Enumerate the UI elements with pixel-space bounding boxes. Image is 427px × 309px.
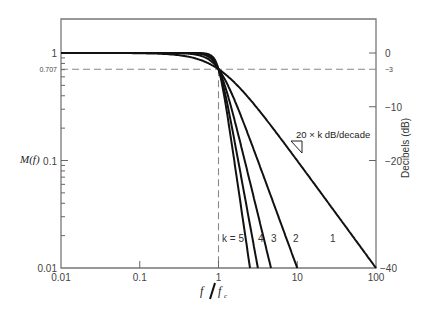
butterworth-magnitude-chart: 0.010.111010010.7070.10.010−3−10−20−4012…: [0, 0, 427, 309]
x-axis-label-fc-sub: c: [224, 292, 228, 300]
curve-label-k-4: 4: [258, 233, 264, 244]
y2-tick-label: −10: [385, 102, 402, 113]
text-labels: 0.010.111010010.7070.10.010−3−10−20−4012…: [38, 48, 403, 283]
x-tick-label: 0.1: [133, 272, 147, 283]
y2-tick-label: −40: [380, 263, 397, 274]
y-tick-label: 0.01: [38, 263, 58, 274]
x-axis-label-f: f: [200, 284, 205, 298]
curve-label-k-2: 2: [293, 233, 299, 244]
x-axis-label-fc: f: [218, 284, 223, 298]
x-axis-label-slash: [210, 283, 215, 299]
x-tick-label: 10: [292, 272, 304, 283]
y2-tick-label: 0: [385, 48, 391, 59]
y2-axis-label: Decibels (dB): [400, 118, 411, 178]
curve-label-k-1: 1: [330, 233, 336, 244]
slope-triangle-icon: [291, 141, 302, 153]
y-axis-label: M(f): [19, 153, 40, 166]
curve-label-k-3: 3: [271, 233, 277, 244]
y-tick-label: 0.1: [43, 156, 57, 167]
y-tick-label: 0.707: [39, 66, 57, 73]
slope-annotation-text: 20 × k dB/decade: [296, 129, 370, 140]
plot-frame: [61, 19, 376, 268]
plot-border: [61, 19, 376, 268]
y2-tick-label: −3: [385, 66, 393, 73]
x-axis-label: f f c: [200, 283, 228, 300]
slope-annotation: 20 × k dB/decade: [291, 129, 370, 153]
y-tick-label: 1: [51, 48, 57, 59]
curve-label-k-5: k = 5: [222, 233, 244, 244]
x-tick-label: 1: [216, 272, 222, 283]
reference-lines: [61, 69, 376, 268]
